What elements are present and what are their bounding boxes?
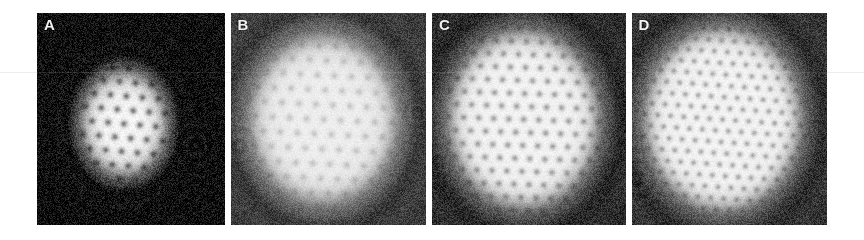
panel-b-image	[231, 13, 427, 225]
panel-d-label: D	[639, 17, 650, 32]
figure-root: A B C D	[0, 0, 864, 240]
panel-b: B	[231, 13, 427, 225]
panel-b-label: B	[238, 17, 249, 32]
panel-c-image	[432, 13, 626, 225]
panel-strip: A B C D	[37, 13, 827, 225]
panel-d-image	[632, 13, 828, 225]
panel-a: A	[37, 13, 225, 225]
panel-c-label: C	[439, 17, 450, 32]
panel-a-label: A	[44, 17, 55, 32]
panel-c: C	[432, 13, 626, 225]
panel-a-image	[37, 13, 225, 225]
panel-d: D	[632, 13, 828, 225]
